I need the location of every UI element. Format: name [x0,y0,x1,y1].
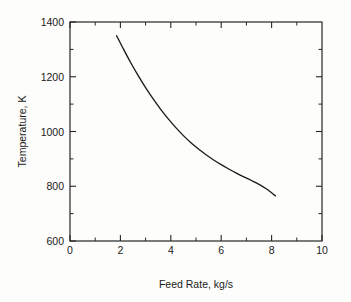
x-tick-label-8: 8 [269,244,275,256]
y-tick-label-600: 600 [46,235,64,247]
x-tick-label-0: 0 [67,244,73,256]
y-tick-label-800: 800 [46,180,64,192]
y-tick-label-1200: 1200 [41,71,65,83]
temperature-vs-feed-rate-plot: 0 2 4 6 8 10 600 800 1000 1200 1400 Feed… [0,0,351,302]
y-axis-title: Temperature, K [16,96,28,168]
x-tick-label-10: 10 [316,244,328,256]
y-tick-label-1400: 1400 [41,16,65,28]
x-axis-title: Feed Rate, kg/s [159,278,233,290]
x-tick-label-6: 6 [218,244,224,256]
x-tick-label-4: 4 [168,244,174,256]
y-tick-label-1000: 1000 [41,126,65,138]
x-tick-label-2: 2 [117,244,123,256]
figure-background [0,0,351,302]
